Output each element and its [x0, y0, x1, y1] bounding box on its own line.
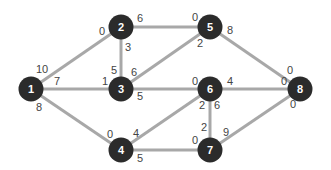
network-graph: 107806351650450820426209000 12345678 — [0, 0, 331, 170]
capacity-label: 0 — [287, 64, 293, 76]
node-5: 5 — [198, 15, 223, 40]
node-3: 3 — [109, 77, 134, 102]
edges-layer — [31, 27, 300, 150]
capacity-label: 0 — [192, 11, 198, 23]
capacity-label: 6 — [214, 99, 220, 111]
capacity-label: 5 — [137, 152, 143, 164]
capacity-label: 2 — [199, 99, 205, 111]
node-1: 1 — [19, 77, 44, 102]
capacity-label: 0 — [107, 128, 113, 140]
capacity-label: 0 — [99, 25, 105, 37]
node-label: 7 — [207, 144, 213, 156]
capacity-label: 0 — [192, 75, 198, 87]
capacity-label: 10 — [36, 63, 48, 75]
capacity-label: 5 — [111, 64, 117, 76]
capacity-label: 0 — [281, 75, 287, 87]
edge-1-4 — [31, 89, 121, 150]
node-label: 4 — [118, 144, 125, 156]
capacity-label: 9 — [223, 126, 229, 138]
capacity-label: 2 — [197, 37, 203, 49]
node-label: 5 — [207, 21, 213, 33]
node-label: 2 — [118, 21, 124, 33]
node-label: 3 — [118, 83, 124, 95]
node-4: 4 — [109, 138, 134, 163]
capacity-label: 7 — [54, 75, 60, 87]
capacity-label: 0 — [192, 134, 198, 146]
node-2: 2 — [109, 15, 134, 40]
capacity-label: 4 — [227, 75, 233, 87]
node-7: 7 — [198, 138, 223, 163]
capacity-label: 5 — [137, 90, 143, 102]
node-6: 6 — [198, 77, 223, 102]
node-8: 8 — [288, 77, 313, 102]
capacity-label: 1 — [102, 75, 108, 87]
capacity-label: 2 — [201, 121, 207, 133]
node-label: 6 — [207, 83, 213, 95]
node-label: 8 — [297, 83, 303, 95]
capacity-label: 8 — [36, 101, 42, 113]
edge-7-8 — [210, 89, 300, 150]
capacity-label: 3 — [125, 41, 131, 53]
capacity-label: 6 — [137, 12, 143, 24]
capacity-label: 6 — [131, 66, 137, 78]
node-label: 1 — [28, 83, 34, 95]
capacity-label: 4 — [133, 127, 139, 139]
capacity-label: 8 — [227, 24, 233, 36]
